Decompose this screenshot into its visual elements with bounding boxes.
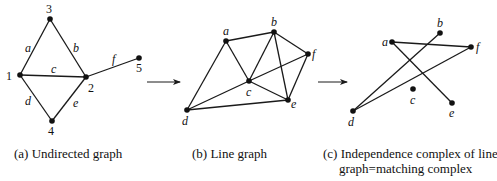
- node-4: [49, 118, 55, 124]
- edge-b-c: [249, 32, 274, 81]
- node-label-2: 2: [88, 81, 94, 95]
- edge-c-d: [187, 81, 249, 110]
- node-f: [305, 51, 311, 57]
- node-5: [136, 55, 142, 61]
- node-label-a: a: [382, 35, 388, 49]
- node-d: [184, 107, 190, 113]
- node-label-1: 1: [6, 69, 12, 83]
- node-e: [285, 97, 291, 103]
- figure: abcdef 31245 (a) Undirected graph abcdef…: [0, 0, 497, 181]
- edge-label-e: e: [73, 96, 79, 110]
- caption-matching-complex-line2: graph=matching complex: [339, 161, 473, 176]
- edge-b-f: [274, 32, 308, 54]
- panel-line-graph: abcdef (b) Line graph: [182, 15, 317, 161]
- node-label-4: 4: [48, 124, 54, 138]
- edge-b-d: [353, 33, 440, 111]
- node-2: [83, 74, 89, 80]
- edge-e-f: [288, 54, 308, 100]
- caption-matching-complex-line1: (c) Independence complex of line: [323, 146, 497, 161]
- node-1: [17, 72, 23, 78]
- edge-label-a: a: [25, 41, 31, 55]
- edge-label-b: b: [73, 41, 79, 55]
- node-label-b: b: [437, 16, 443, 30]
- edge-a-c: [226, 41, 249, 81]
- node-label-c: c: [246, 85, 252, 99]
- node-3: [47, 16, 53, 22]
- node-label-f: f: [476, 40, 481, 54]
- node-d: [350, 108, 356, 114]
- node-label-d: d: [348, 115, 355, 129]
- edge-a-e: [392, 42, 452, 103]
- node-label-f: f: [312, 47, 317, 61]
- edge-c-f: [249, 54, 308, 81]
- node-label-c: c: [410, 93, 416, 107]
- node-e: [449, 100, 455, 106]
- node-label-5: 5: [136, 61, 142, 75]
- node-label-e: e: [449, 106, 455, 120]
- caption-line-graph: (b) Line graph: [192, 146, 268, 161]
- edge-c-e: [249, 81, 288, 100]
- node-b: [437, 30, 443, 36]
- edge-a-b: [226, 32, 274, 41]
- node-c: [410, 86, 416, 92]
- node-label-a: a: [223, 24, 229, 38]
- node-a: [389, 39, 395, 45]
- node-b: [271, 29, 277, 35]
- node-a: [223, 38, 229, 44]
- edge-label-c: c: [51, 62, 57, 76]
- edge-4-2: [52, 77, 86, 121]
- node-f: [468, 44, 474, 50]
- caption-undirected-graph: (a) Undirected graph: [14, 146, 123, 161]
- panel-matching-complex: abfced (c) Independence complex of line …: [323, 16, 497, 176]
- edge-d-e: [187, 100, 288, 110]
- node-label-b: b: [271, 15, 277, 29]
- node-label-e: e: [291, 97, 297, 111]
- edge-label-d: d: [25, 94, 32, 108]
- edge-a-f: [392, 42, 471, 47]
- node-label-d: d: [182, 114, 189, 128]
- node-label-3: 3: [46, 2, 52, 16]
- panel-undirected-graph: abcdef 31245 (a) Undirected graph: [6, 2, 142, 161]
- edge-label-f: f: [112, 52, 117, 66]
- node-c: [246, 78, 252, 84]
- edge-a-d: [187, 41, 226, 110]
